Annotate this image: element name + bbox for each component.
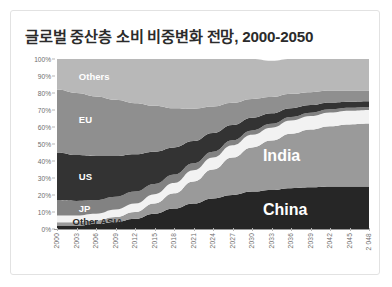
y-axis-tick-mark — [52, 178, 55, 179]
x-axis-tick-label: 2030 — [248, 233, 255, 248]
x-axis-tick-label: 2039 — [307, 233, 314, 248]
y-axis: 0%10%20%30%40%50%60%70%80%90%100% — [25, 59, 55, 234]
x-axis-tick-label: 2018 — [170, 233, 177, 248]
x-axis-tick-label: 2006 — [92, 233, 99, 248]
y-axis-tick-label: 70% — [38, 107, 51, 114]
x-axis-tick-mark — [311, 228, 312, 231]
x-axis-tick-label: 2009 — [112, 233, 119, 248]
y-axis-tick-mark — [52, 93, 55, 94]
y-axis-tick-mark — [52, 59, 55, 60]
x-axis-tick-label: 2012 — [131, 233, 138, 248]
x-axis-tick-label: 2015 — [151, 233, 158, 248]
y-axis-tick-label: 10% — [38, 209, 51, 216]
x-axis-tick-label: 2000 — [53, 233, 60, 248]
y-axis-tick-mark — [52, 212, 55, 213]
y-axis-tick-label: 100% — [34, 56, 51, 63]
y-axis-tick-mark — [52, 76, 55, 77]
x-axis-tick-label: 2036 — [287, 233, 294, 248]
x-axis-tick-mark — [194, 228, 195, 231]
x-axis-tick-mark — [272, 228, 273, 231]
y-axis-tick-label: 20% — [38, 192, 51, 199]
x-axis-tick-label: 2045 — [346, 233, 353, 248]
x-axis-tick-label: 2 048 — [365, 233, 372, 251]
y-axis-tick-label: 40% — [38, 158, 51, 165]
x-axis: 2000200320062009201220152018202120242027… — [57, 231, 369, 261]
x-axis-tick-label: 2033 — [268, 233, 275, 248]
x-axis-tick-mark — [155, 228, 156, 231]
x-axis-tick-mark — [330, 228, 331, 231]
x-axis-tick-label: 2024 — [209, 233, 216, 248]
chart-plot-area: 0%10%20%30%40%50%60%70%80%90%100% Others… — [25, 59, 369, 261]
y-axis-tick-label: 30% — [38, 175, 51, 182]
x-axis-tick-mark — [252, 228, 253, 231]
x-axis-tick-mark — [233, 228, 234, 231]
x-axis-tick-mark — [350, 228, 351, 231]
x-axis-tick-mark — [369, 228, 370, 231]
y-axis-tick-mark — [52, 127, 55, 128]
x-axis-tick-mark — [57, 228, 58, 231]
chart-title: 글로벌 중산층 소비 비중변화 전망, 2000-2050 — [25, 24, 369, 46]
x-axis-tick-mark — [174, 228, 175, 231]
y-axis-tick-label: 80% — [38, 90, 51, 97]
y-axis-tick-mark — [52, 161, 55, 162]
stacked-area-plot: OthersEUUSJPOther ASIAIndiaChina — [57, 59, 369, 229]
x-axis-tick-mark — [213, 228, 214, 231]
x-axis-tick-label: 2021 — [190, 233, 197, 248]
y-axis-tick-mark — [52, 195, 55, 196]
y-axis-tick-label: 0% — [41, 226, 51, 233]
x-axis-tick-label: 2027 — [229, 233, 236, 248]
y-axis-tick-label: 50% — [38, 141, 51, 148]
chart-card: 글로벌 중산층 소비 비중변화 전망, 2000-2050 0%10%20%30… — [10, 10, 380, 275]
x-axis-tick-mark — [291, 228, 292, 231]
x-axis-tick-label: 2042 — [326, 233, 333, 248]
y-axis-tick-label: 90% — [38, 73, 51, 80]
x-axis-tick-mark — [116, 228, 117, 231]
x-axis-tick-mark — [135, 228, 136, 231]
y-axis-tick-mark — [52, 110, 55, 111]
y-axis-tick-label: 60% — [38, 124, 51, 131]
x-axis-baseline — [54, 229, 369, 230]
x-axis-tick-mark — [77, 228, 78, 231]
y-axis-tick-mark — [52, 144, 55, 145]
area-chart-svg — [57, 59, 369, 229]
x-axis-tick-label: 2003 — [73, 233, 80, 248]
x-axis-tick-mark — [96, 228, 97, 231]
